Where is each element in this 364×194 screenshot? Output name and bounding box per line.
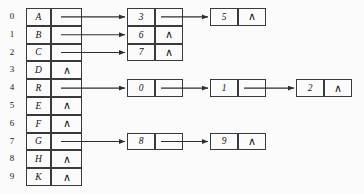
pointer-arrows-layer: [0, 0, 364, 194]
hash-table-chaining-diagram: 0 1 2 3 4 5 6 7 8 9 A B C D ∧ R E ∧ F ∧ …: [0, 0, 364, 194]
